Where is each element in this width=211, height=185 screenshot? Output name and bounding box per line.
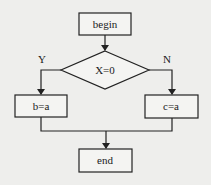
decision-label: X=0 [95, 64, 115, 76]
assign-b-node: b=a [15, 95, 67, 117]
yes-label: Y [38, 53, 46, 65]
begin-label: begin [93, 18, 118, 30]
assign-c-node: c=a [145, 95, 198, 118]
no-label: N [163, 53, 171, 65]
begin-node: begin [79, 13, 131, 35]
decision-node: X=0 [61, 51, 149, 89]
assign-c-label: c=a [163, 100, 179, 112]
end-label: end [97, 154, 113, 166]
edge-decision-to-c [149, 70, 172, 94]
edge-decision-to-b [41, 70, 61, 94]
assign-b-label: b=a [33, 100, 50, 112]
edge-merge-line [41, 117, 172, 131]
flowchart-canvas: begin X=0 Y N b=a c=a end [0, 0, 211, 185]
end-node: end [79, 149, 132, 172]
